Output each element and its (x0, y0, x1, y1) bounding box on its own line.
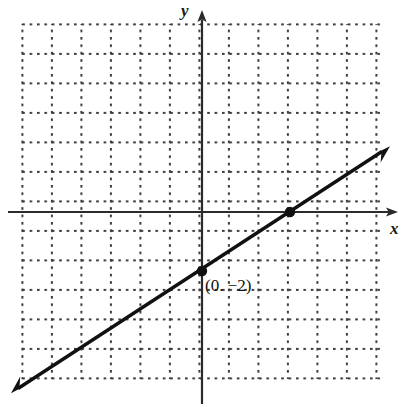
x-axis-label: x (390, 220, 399, 237)
point-y-intercept (197, 266, 207, 276)
point-x-intercept (285, 207, 295, 217)
grid-lines (21, 23, 380, 379)
point-coordinate-label: (0. −2) (205, 277, 251, 294)
axes (8, 10, 398, 404)
graph-canvas (0, 0, 406, 404)
y-axis-label: y (181, 2, 189, 19)
graph-figure: y x (0. −2) (0, 0, 406, 404)
